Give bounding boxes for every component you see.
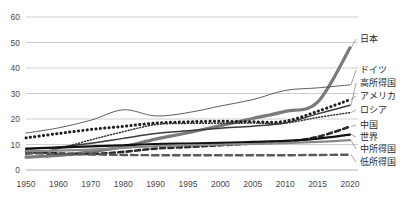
- y-tick-label: 20: [11, 114, 21, 124]
- legend-label-中所得国: 中所得国: [360, 143, 396, 154]
- series-line-低所得国: [26, 153, 350, 155]
- legend-leader-lines: [351, 39, 356, 162]
- x-tick-label: 1995: [179, 179, 198, 189]
- leader-line-低所得国: [351, 155, 356, 162]
- leader-line-アメリカ: [351, 96, 356, 100]
- legend-label-ロシア: ロシア: [360, 105, 387, 115]
- x-tick-label: 2005: [243, 179, 262, 189]
- y-axis-tick-labels: 6050403020100: [11, 12, 21, 175]
- legend-labels: 日本ドイツ高所得国アメリカロシア中国世界中所得国低所得国: [360, 33, 396, 167]
- x-tick-label: 1950: [17, 179, 36, 189]
- leader-line-世界: [351, 135, 356, 137]
- y-tick-label: 60: [11, 12, 21, 22]
- y-tick-label: 30: [11, 89, 21, 99]
- y-tick-label: 40: [11, 63, 21, 73]
- legend-label-アメリカ: アメリカ: [360, 91, 396, 101]
- line-chart: 6050403020100 19501960197019801990199520…: [0, 0, 416, 197]
- leader-line-中国: [351, 125, 356, 127]
- legend-label-中国: 中国: [360, 119, 378, 130]
- leader-line-ロシア: [351, 110, 356, 113]
- x-tick-label: 1960: [49, 179, 68, 189]
- legend-label-低所得国: 低所得国: [360, 156, 396, 167]
- x-tick-label: 2010: [276, 179, 295, 189]
- leader-line-ドイツ: [351, 70, 356, 85]
- y-tick-label: 0: [15, 165, 20, 175]
- x-tick-label: 1990: [146, 179, 165, 189]
- y-tick-label: 50: [11, 38, 21, 48]
- x-tick-label: 2000: [211, 179, 230, 189]
- series-group: [26, 48, 350, 157]
- legend-label-日本: 日本: [360, 33, 378, 44]
- chart-canvas: 6050403020100 19501960197019801990199520…: [0, 0, 416, 197]
- x-tick-label: 2015: [308, 179, 327, 189]
- x-tick-label: 1980: [114, 179, 133, 189]
- x-tick-label: 2020: [341, 179, 360, 189]
- legend-label-世界: 世界: [360, 131, 378, 142]
- x-tick-label: 1970: [81, 179, 100, 189]
- leader-line-日本: [351, 39, 356, 48]
- legend-label-高所得国: 高所得国: [360, 77, 396, 88]
- legend-label-ドイツ: ドイツ: [360, 65, 387, 75]
- y-tick-label: 10: [11, 140, 21, 150]
- leader-line-高所得国: [351, 83, 356, 105]
- x-axis-tick-labels: 1950196019701980199019952000200520102015…: [17, 179, 360, 189]
